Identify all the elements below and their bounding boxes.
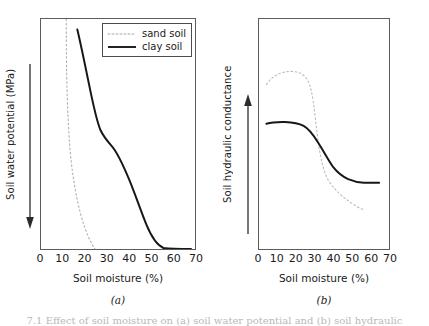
panel-a-y-axis-label: Soil water potential (MPa) bbox=[1, 18, 19, 250]
panel-b-curves bbox=[259, 19, 389, 249]
panel-a-xtick-0: 0 bbox=[37, 252, 44, 266]
panel-b-xtick-50: 50 bbox=[345, 252, 359, 266]
panel-a-y-axis-arrow-down bbox=[22, 64, 38, 229]
panel-a-x-axis-ticks: 0 10 20 30 40 50 60 70 bbox=[40, 252, 196, 268]
legend-item-sand: sand soil bbox=[107, 27, 186, 40]
panel-a-xtick-60: 60 bbox=[167, 252, 181, 266]
panel-b-xtick-30: 30 bbox=[308, 252, 322, 266]
panel-b-xtick-0: 0 bbox=[255, 252, 262, 266]
panel-a-xtick-30: 30 bbox=[100, 252, 114, 266]
panel-b-y-axis-arrow-up bbox=[240, 94, 256, 234]
panel-b-xtick-40: 40 bbox=[326, 252, 340, 266]
panel-a-xtick-70: 70 bbox=[189, 252, 203, 266]
panel-a-xtick-10: 10 bbox=[55, 252, 69, 266]
panel-a-tag: (a) bbox=[40, 294, 196, 306]
panel-b-x-axis-label: Soil moisture (%) bbox=[258, 272, 390, 284]
panel-a: Soil water potential (MPa) bbox=[0, 0, 214, 325]
legend-label-clay: clay soil bbox=[142, 41, 182, 52]
panel-a-curve-clay bbox=[77, 29, 191, 249]
legend-label-sand: sand soil bbox=[142, 28, 186, 39]
panel-b-y-axis-group: Soil hydraulic conductance bbox=[215, 18, 258, 250]
panel-b: Soil hydraulic conductance 0 10 20 30 bbox=[215, 0, 429, 325]
panel-a-x-axis-label: Soil moisture (%) bbox=[40, 272, 196, 284]
panel-b-x-axis-ticks: 0 10 20 30 40 50 60 70 bbox=[258, 252, 390, 268]
figure-caption: 7.1 Effect of soil moisture on (a) soil … bbox=[0, 315, 429, 326]
panel-b-xtick-60: 60 bbox=[364, 252, 378, 266]
legend-item-clay: clay soil bbox=[107, 40, 186, 53]
panel-a-curve-sand bbox=[66, 19, 95, 249]
panel-b-xtick-20: 20 bbox=[289, 252, 303, 266]
panel-b-curve-clay bbox=[266, 122, 379, 183]
panel-b-xtick-70: 70 bbox=[383, 252, 397, 266]
panel-a-xtick-40: 40 bbox=[122, 252, 136, 266]
solid-line-icon bbox=[107, 42, 137, 52]
panel-a-xtick-50: 50 bbox=[144, 252, 158, 266]
panel-a-y-axis-group: Soil water potential (MPa) bbox=[0, 18, 40, 250]
panel-b-xtick-10: 10 bbox=[270, 252, 284, 266]
dotted-line-icon bbox=[107, 29, 137, 39]
panel-b-tag: (b) bbox=[258, 294, 390, 306]
legend: sand soil clay soil bbox=[102, 23, 192, 57]
panel-a-plot-area: sand soil clay soil bbox=[40, 18, 196, 250]
panel-b-y-axis-label: Soil hydraulic conductance bbox=[218, 18, 236, 250]
panel-a-xtick-20: 20 bbox=[78, 252, 92, 266]
panel-b-curve-sand bbox=[266, 71, 364, 209]
panel-b-plot-area bbox=[258, 18, 390, 250]
